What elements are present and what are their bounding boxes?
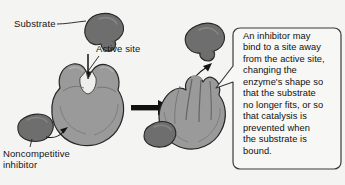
callout-text: An inhibitor may bind to a site away fro… xyxy=(243,31,339,157)
substrate-label: Substrate xyxy=(14,18,56,29)
active-site-label: Active site xyxy=(96,43,140,54)
noncompetitive-inhibitor-label: Noncompetitive inhibitor xyxy=(3,148,70,170)
noncompetitive-inhibition-figure: Substrate Active site Noncompetitive inh… xyxy=(0,0,345,185)
